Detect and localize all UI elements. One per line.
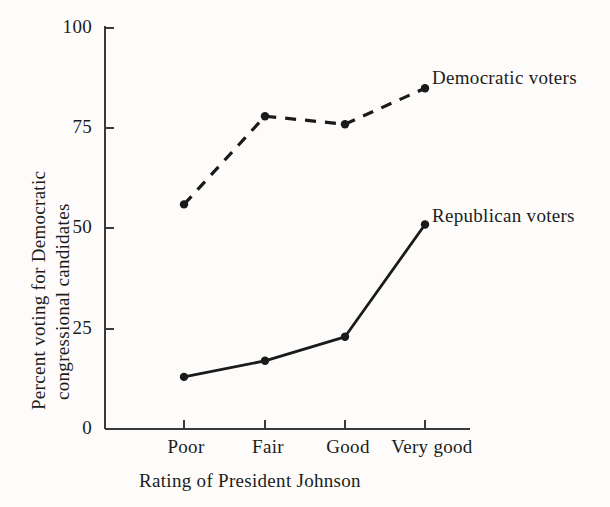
data-point-democratic-poor (180, 200, 188, 208)
series-republican-voters (180, 220, 429, 381)
y-tick-label-100: 100 (40, 16, 92, 38)
series-democratic-line (184, 88, 425, 204)
series-label-republican-voters: Republican voters (432, 205, 575, 227)
data-point-republican-fair (261, 357, 269, 365)
data-point-democratic-very-good (421, 84, 429, 92)
data-point-democratic-fair (261, 112, 269, 120)
y-tick-label-0: 0 (40, 417, 92, 439)
y-axis-ticks (105, 28, 114, 329)
series-democratic-voters (180, 84, 429, 209)
x-axis-title: Rating of President Johnson (0, 470, 500, 492)
x-axis-ticks (184, 420, 425, 429)
y-axis-title-line-2: congressional candidates (52, 203, 74, 400)
x-tick-label-poor: Poor (167, 436, 204, 458)
chart-figure: 100 75 50 25 0 Poor Fair Good Very good … (0, 0, 610, 507)
x-tick-label-fair: Fair (252, 436, 284, 458)
series-republican-line (184, 225, 425, 377)
series-label-democratic-voters: Democratic voters (432, 67, 577, 89)
x-tick-label-good: Good (326, 436, 369, 458)
data-point-democratic-good (341, 120, 349, 128)
y-axis-title-line-1: Percent voting for Democratic (28, 171, 50, 410)
data-point-republican-good (341, 333, 349, 341)
y-tick-label-75: 75 (40, 116, 92, 138)
data-point-republican-very-good (421, 220, 429, 228)
data-point-republican-poor (180, 373, 188, 381)
x-tick-label-very-good: Very good (391, 436, 472, 458)
